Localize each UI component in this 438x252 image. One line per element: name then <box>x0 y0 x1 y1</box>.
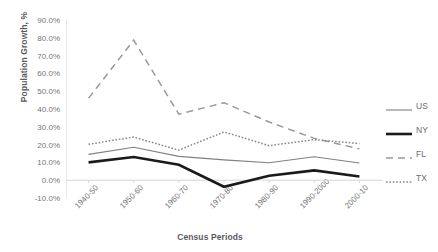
series-lines <box>66 20 382 198</box>
legend-item-tx[interactable]: TX <box>386 174 438 186</box>
legend-item-fl[interactable]: FL <box>386 150 438 162</box>
plot-area <box>66 20 382 198</box>
legend-label-tx: TX <box>416 173 427 183</box>
legend-label-us: US <box>416 101 428 111</box>
legend-item-us[interactable]: US <box>386 102 438 114</box>
legend-label-fl: FL <box>416 149 426 159</box>
series-line-fl <box>89 40 360 149</box>
legend-label-ny: NY <box>416 125 428 135</box>
series-line-us <box>89 147 360 163</box>
line-chart: Population Growth, % Census Periods 90.0… <box>0 0 438 252</box>
legend-item-ny[interactable]: NY <box>386 126 438 138</box>
series-line-tx <box>89 132 360 150</box>
